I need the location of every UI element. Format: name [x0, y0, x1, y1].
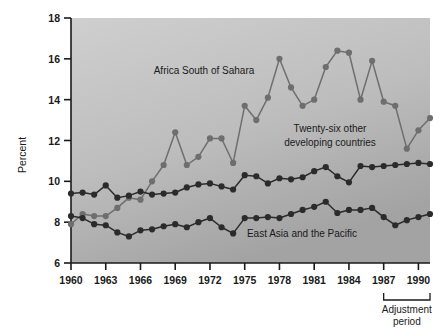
data-point: [381, 163, 387, 169]
data-point: [346, 50, 352, 56]
data-point: [172, 189, 178, 195]
data-point: [357, 97, 363, 103]
data-point: [68, 213, 74, 219]
data-point: [427, 161, 433, 167]
data-point: [68, 221, 74, 227]
plot-area-background: [71, 18, 430, 263]
data-point: [161, 223, 167, 229]
data-point: [276, 175, 282, 181]
data-point: [300, 103, 306, 109]
x-tick-label: 1960: [59, 274, 83, 286]
chart-figure: 681012141618 196019631966196919721975197…: [0, 0, 447, 336]
data-point: [230, 186, 236, 192]
chart-canvas: 681012141618 196019631966196919721975197…: [0, 0, 447, 336]
data-point: [323, 199, 329, 205]
x-tick-label: 1972: [198, 274, 222, 286]
data-point: [184, 184, 190, 190]
data-point: [265, 214, 271, 220]
data-point: [230, 230, 236, 236]
data-point: [346, 179, 352, 185]
data-point: [114, 205, 120, 211]
data-point: [184, 224, 190, 230]
data-point: [114, 229, 120, 235]
data-point: [91, 192, 97, 198]
data-point: [334, 48, 340, 54]
y-tick-label: 12: [48, 135, 60, 147]
x-tick-label: 1975: [233, 274, 257, 286]
data-point: [311, 97, 317, 103]
x-tick-label: 1969: [164, 274, 188, 286]
data-point: [253, 173, 259, 179]
data-point: [103, 222, 109, 228]
data-point: [91, 213, 97, 219]
bracket-label-line2: period: [393, 316, 421, 327]
data-point: [242, 103, 248, 109]
data-point: [126, 233, 132, 239]
data-point: [172, 221, 178, 227]
x-tick-label: 1978: [268, 274, 292, 286]
data-point: [288, 176, 294, 182]
data-point: [184, 162, 190, 168]
data-point: [207, 215, 213, 221]
data-point: [288, 211, 294, 217]
data-point: [357, 163, 363, 169]
data-point: [415, 127, 421, 133]
data-point: [195, 154, 201, 160]
data-point: [323, 164, 329, 170]
data-point: [103, 182, 109, 188]
data-point: [381, 214, 387, 220]
y-tick-label: 14: [48, 94, 60, 106]
data-point: [369, 58, 375, 64]
data-point: [346, 207, 352, 213]
data-point: [404, 217, 410, 223]
data-point: [126, 193, 132, 199]
data-point: [415, 214, 421, 220]
data-point: [195, 219, 201, 225]
data-point: [392, 222, 398, 228]
data-point: [392, 162, 398, 168]
data-point: [311, 168, 317, 174]
data-point: [427, 211, 433, 217]
data-point: [91, 221, 97, 227]
data-point: [392, 103, 398, 109]
data-point: [79, 215, 85, 221]
data-point: [300, 207, 306, 213]
y-tick-label: 18: [48, 12, 60, 24]
data-point: [334, 210, 340, 216]
twentysix-label-line1: Twenty-six other: [294, 123, 367, 134]
x-tick-label: 1984: [337, 274, 361, 286]
data-point: [415, 160, 421, 166]
y-tick-label: 6: [54, 257, 60, 269]
data-point: [381, 99, 387, 105]
data-point: [149, 226, 155, 232]
data-point: [357, 207, 363, 213]
x-tick-label: 1990: [407, 274, 431, 286]
data-point: [207, 135, 213, 141]
data-point: [103, 213, 109, 219]
africa-label: Africa South of Sahara: [154, 65, 255, 76]
y-tick-label: 10: [48, 175, 60, 187]
data-point: [404, 161, 410, 167]
x-tick-label: 1963: [94, 274, 118, 286]
data-point: [265, 180, 271, 186]
y-tick-label: 16: [48, 53, 60, 65]
data-point: [114, 195, 120, 201]
data-point: [276, 215, 282, 221]
data-point: [369, 164, 375, 170]
data-point: [137, 227, 143, 233]
twentysix-label-line2: developing countries: [284, 137, 376, 148]
data-point: [265, 95, 271, 101]
data-point: [218, 224, 224, 230]
data-point: [195, 181, 201, 187]
x-tick-label: 1981: [303, 274, 327, 286]
data-point: [276, 56, 282, 62]
data-point: [218, 183, 224, 189]
data-point: [230, 160, 236, 166]
data-point: [253, 117, 259, 123]
data-point: [288, 84, 294, 90]
bracket-label-line1: Adjustment: [382, 304, 432, 315]
data-point: [207, 180, 213, 186]
eastasia-label: East Asia and the Pacific: [247, 228, 357, 239]
data-point: [242, 215, 248, 221]
data-point: [242, 172, 248, 178]
